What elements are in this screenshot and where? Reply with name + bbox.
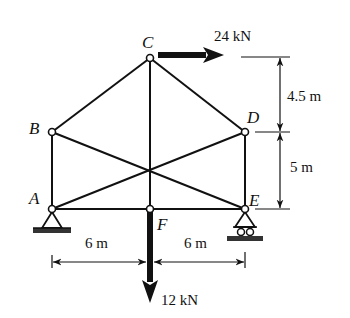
member-bc: [52, 58, 150, 132]
truss-members: [52, 58, 245, 209]
vertical-load-label: 12 kN: [161, 292, 198, 308]
horizontal-load-label: 24 kN: [214, 28, 251, 44]
node-label-d: D: [246, 108, 260, 127]
node-label-c: C: [142, 33, 154, 52]
roller-support-icon: [227, 212, 263, 241]
node-d: [242, 129, 249, 136]
horizontal-load-arrow: [158, 47, 224, 63]
vertical-load-arrow: [142, 212, 158, 303]
node-f: [147, 206, 154, 213]
node-c: [147, 55, 154, 62]
truss-nodes: [49, 55, 249, 213]
node-label-f: F: [156, 215, 168, 234]
node-label-b: B: [29, 119, 40, 138]
node-a: [49, 206, 56, 213]
node-b: [49, 129, 56, 136]
pin-support-icon: [33, 212, 71, 233]
node-label-a: A: [28, 189, 40, 208]
dimension-label-af: 6 m: [85, 235, 108, 251]
truss-diagram: A B C D E F 24 kN 12 kN 6 m 6 m 4.5 m 5 …: [0, 0, 350, 318]
dimension-label-de: 5 m: [290, 159, 313, 175]
truss-svg: A B C D E F 24 kN 12 kN 6 m 6 m 4.5 m 5 …: [0, 0, 350, 318]
node-e: [242, 206, 249, 213]
dimension-label-fe: 6 m: [184, 235, 207, 251]
member-cd: [150, 58, 245, 132]
dimension-label-cd: 4.5 m: [287, 88, 322, 104]
node-label-e: E: [248, 191, 260, 210]
